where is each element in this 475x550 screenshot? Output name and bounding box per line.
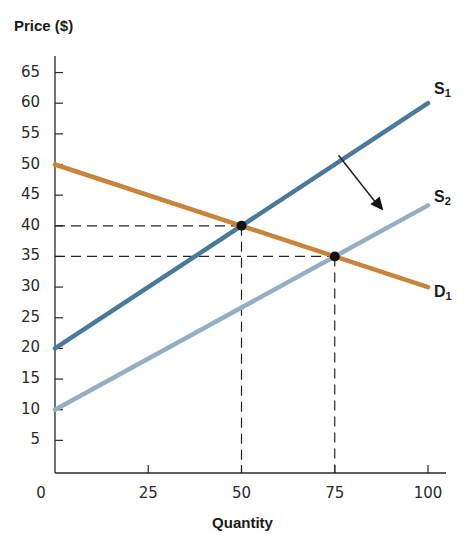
x-tick-label: 25 [128,484,168,502]
x-tick-label: 0 [21,484,61,502]
shift-arrow [338,155,383,210]
axes [55,56,446,473]
y-tick-label: 30 [4,278,40,294]
y-tick-label: 45 [4,186,40,202]
equilibrium-point [330,251,340,261]
supply-demand-chart [0,0,475,550]
y-tick-label: 55 [4,125,40,141]
y-tick-label: 15 [4,370,40,386]
y-tick-label: 20 [4,339,40,355]
y-tick-label: 10 [4,401,40,417]
y-tick-label: 25 [4,309,40,325]
y-tick-label: 50 [4,156,40,172]
y-tick-label: 65 [4,64,40,80]
y-axis-label: Price ($) [14,17,73,34]
curve-label-d1: D1 [434,283,452,302]
curve-label-s1: S1 [434,80,451,99]
x-tick-label: 75 [315,484,355,502]
y-tick-label: 5 [4,431,40,447]
curve-label-s2: S2 [434,188,451,207]
x-axis-label: Quantity [0,514,475,531]
x-tick-label: 100 [408,484,448,502]
x-tick-label: 50 [222,484,262,502]
x-axis-ticks [148,465,428,473]
y-tick-label: 60 [4,94,40,110]
y-tick-label: 35 [4,247,40,263]
dashed-guide-lines [55,226,335,473]
arrow-shaft [338,155,377,204]
equilibrium-point [237,221,247,231]
y-tick-label: 40 [4,217,40,233]
